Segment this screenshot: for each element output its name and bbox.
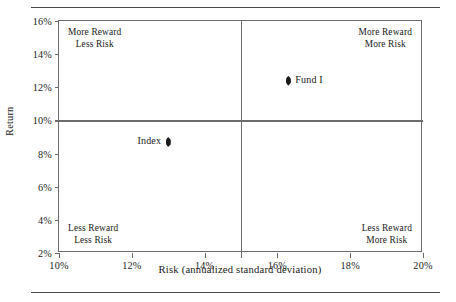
y-axis-tick-label: 16%: [33, 16, 52, 27]
quadrant-label-bottom-right: Less Reward More Risk: [362, 222, 412, 246]
quadrant-bl-line2: Less Risk: [68, 234, 118, 246]
diamond-marker-icon: [286, 76, 291, 86]
figure-bottom-rule: [31, 292, 440, 293]
plot-area: More Reward Less Risk More Reward More R…: [58, 20, 422, 252]
x-axis-tick: [205, 253, 206, 258]
quadrant-tl-line1: More Reward: [68, 26, 121, 38]
quadrant-label-bottom-left: Less Reward Less Risk: [68, 222, 118, 246]
figure-top-rule: [31, 7, 440, 8]
x-axis-tick: [350, 253, 351, 258]
quadrant-tr-line1: More Reward: [359, 26, 412, 38]
y-axis-tick-label: 14%: [33, 49, 52, 60]
quadrant-br-line1: Less Reward: [362, 222, 412, 234]
y-axis-tick: [55, 154, 60, 155]
risk-return-figure: More Reward Less Risk More Reward More R…: [0, 0, 456, 302]
y-axis-tick-label: 8%: [38, 148, 52, 159]
y-axis-tick-label: 4%: [38, 214, 52, 225]
x-axis-threshold-tick: [241, 253, 242, 258]
x-axis-title: Risk (annualized standard deviation): [58, 264, 422, 275]
x-axis-tick: [277, 253, 278, 258]
data-point-label: Index: [137, 135, 161, 146]
y-axis-title: Return: [4, 107, 15, 136]
y-axis-tick: [55, 87, 60, 88]
quadrant-label-top-right: More Reward More Risk: [359, 26, 412, 50]
diamond-marker-icon: [166, 137, 171, 147]
y-axis-tick: [55, 21, 60, 22]
y-axis-tick-label: 10%: [33, 115, 52, 126]
x-axis-tick: [132, 253, 133, 258]
y-axis-tick: [55, 120, 60, 121]
y-axis-tick: [55, 54, 60, 55]
return-threshold-line: [59, 120, 423, 121]
y-axis-tick: [55, 187, 60, 188]
data-point-label: Fund I: [295, 74, 323, 85]
y-axis-tick-label: 6%: [38, 181, 52, 192]
quadrant-tl-line2: Less Risk: [68, 38, 121, 50]
risk-threshold-line: [241, 21, 242, 253]
quadrant-label-top-left: More Reward Less Risk: [68, 26, 121, 50]
quadrant-br-line2: More Risk: [362, 234, 412, 246]
x-axis-tick: [423, 253, 424, 258]
y-axis-tick-label: 2%: [38, 248, 52, 259]
y-axis-tick: [55, 220, 60, 221]
y-axis-tick-label: 12%: [33, 82, 52, 93]
x-axis-tick: [59, 253, 60, 258]
quadrant-bl-line1: Less Reward: [68, 222, 118, 234]
quadrant-tr-line2: More Risk: [359, 38, 412, 50]
